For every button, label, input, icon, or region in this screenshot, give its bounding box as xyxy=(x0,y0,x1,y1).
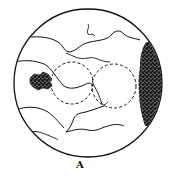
dashed-circle-left xyxy=(51,62,93,104)
figure-label: A xyxy=(0,159,174,170)
diagram-figure xyxy=(0,0,174,179)
wavy-line-mid-1 xyxy=(14,61,93,88)
wavy-line-bottom xyxy=(30,131,58,140)
wavy-line-top-2 xyxy=(66,53,110,62)
wavy-line-mid-2 xyxy=(93,84,108,105)
wavy-line-lower-2 xyxy=(66,106,104,132)
figure-label-text: A xyxy=(76,159,84,170)
dark-patch-left xyxy=(30,72,52,90)
branch-line-top xyxy=(87,24,95,36)
stippled-crescent-right xyxy=(139,42,170,126)
wavy-line-lower-3 xyxy=(66,125,124,133)
dashed-circle-right xyxy=(92,64,136,108)
wavy-line-top-1 xyxy=(22,31,140,52)
field-contents xyxy=(14,24,170,140)
